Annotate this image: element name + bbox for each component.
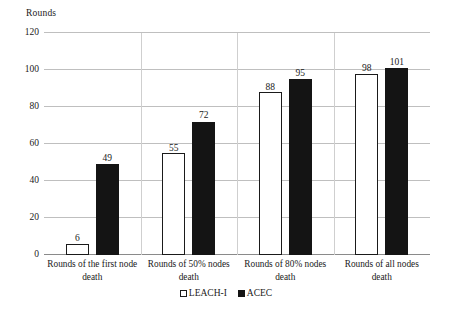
bars-layer: 6495572889598101 [44, 33, 430, 255]
legend-label: LEACH-I [189, 288, 227, 298]
y-axis-tick-label: 0 [34, 249, 39, 259]
x-axis-category-label: Rounds of the first nodedeath [44, 258, 141, 283]
bar-value-label: 55 [169, 144, 179, 154]
bar-acec: 101 [385, 68, 408, 255]
category-label-line: death [141, 271, 238, 284]
bar-value-label: 101 [390, 58, 404, 68]
bar-value-label: 88 [266, 83, 276, 93]
bar-value-label: 72 [199, 111, 209, 121]
bar-value-label: 6 [75, 234, 80, 244]
y-axis-title: Rounds [26, 8, 56, 18]
filled-square-marker-icon [238, 290, 245, 297]
x-axis-category-label: Rounds of 80% nodesdeath [237, 258, 334, 283]
legend-item-acec[interactable]: ACEC [238, 288, 272, 298]
bar-leach-i: 98 [355, 74, 378, 255]
category-label-line: death [237, 271, 334, 284]
y-axis-tick-label: 80 [30, 101, 40, 111]
bar-value-label: 95 [296, 69, 306, 79]
bar-acec: 49 [96, 164, 119, 255]
bar-acec: 95 [289, 79, 312, 255]
category-label-line: death [44, 271, 141, 284]
bar-chart: Rounds 020406080100120 6495572889598101 … [0, 0, 452, 315]
legend-label: ACEC [247, 288, 272, 298]
legend-item-leach-i[interactable]: LEACH-I [180, 288, 227, 298]
chart-legend: LEACH-IACEC [0, 288, 452, 298]
y-axis-tick-label: 40 [30, 175, 40, 185]
category-label-line: Rounds of 50% nodes [141, 258, 238, 271]
y-axis-tick-label: 20 [30, 212, 40, 222]
category-label-line: Rounds of the first node [44, 258, 141, 271]
open-square-marker-icon [180, 290, 187, 297]
bar-leach-i: 55 [162, 153, 185, 255]
bar-acec: 72 [192, 122, 215, 255]
x-axis-category-labels: Rounds of the first nodedeathRounds of 5… [44, 258, 430, 292]
category-label-line: Rounds of 80% nodes [237, 258, 334, 271]
y-axis-tick-label: 100 [25, 64, 39, 74]
x-axis-category-label: Rounds of all nodes death [334, 258, 431, 283]
plot-area: 020406080100120 6495572889598101 [44, 33, 430, 255]
bar-leach-i: 6 [66, 244, 89, 255]
y-axis-tick-label: 60 [30, 138, 40, 148]
category-label-line: Rounds of all nodes death [334, 258, 431, 283]
y-axis-tick-label: 120 [25, 27, 39, 37]
bar-value-label: 49 [103, 154, 113, 164]
bar-leach-i: 88 [259, 92, 282, 255]
x-axis-category-label: Rounds of 50% nodesdeath [141, 258, 238, 283]
bar-value-label: 98 [362, 64, 372, 74]
